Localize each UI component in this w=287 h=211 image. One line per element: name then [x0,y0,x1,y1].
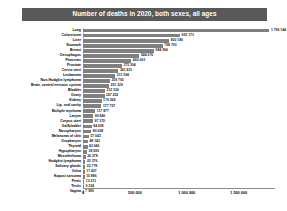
bar [83,99,102,103]
axis-horizontal-line [83,188,275,189]
bar-value-label: 26 278 [86,155,98,158]
bar-value-label: 57 043 [89,135,101,138]
bar [83,59,131,63]
bar [83,79,110,83]
bar [83,49,154,53]
bar-category-label: Testis [0,185,83,189]
bar-value-label: 97 370 [93,120,105,123]
bar-category-label: Ovary [0,94,83,98]
bar-category-label: Hypopharynx [0,150,83,154]
bar-value-label: 466 003 [131,59,145,62]
bar [83,114,93,118]
bar-value-label: 15 886 [85,175,97,178]
bar-category-label: Liver [0,39,83,43]
bar [83,29,269,33]
bar-category-label: Non-Hodgkin lymphoma [0,79,83,83]
bar [83,54,139,58]
bar [83,64,122,68]
bar-value-label: 830 180 [169,39,183,42]
bar-category-label: Pancreas [0,59,83,63]
bar-category-label: Bladder [0,89,83,93]
bar-category-label: Oropharynx [0,140,83,144]
bar-value-label: 179 368 [102,99,116,102]
bar-category-label: Gallbladder [0,125,83,129]
bar-category-label: Thyroid [0,145,83,149]
bar-category-label: Stomach [0,44,83,48]
bar-value-label: 22 778 [85,165,97,168]
bar-value-label: 43 646 [88,145,100,148]
bar-value-label: 544 076 [139,54,153,57]
axis-tick-label: 500 000 [128,192,142,196]
bar-value-label: 117 877 [95,110,109,113]
bar-value-label: 13 211 [84,180,96,183]
bar-category-label: Salivary glands [0,165,83,169]
bar-value-label: 935 173 [180,34,194,37]
bar-value-label: 80 008 [91,130,103,133]
bar [83,104,101,108]
bar-value-label: 48 143 [88,140,100,143]
bar-value-label: 768 793 [163,44,177,47]
bar-category-label: Larynx [0,115,83,119]
bar-value-label: 341 831 [118,69,132,72]
bar [83,89,105,93]
page-title: Number of deaths in 2020, both sexes, al… [72,11,216,17]
bar-category-label: Cervix uteri [0,69,83,73]
bar-value-label: 684 996 [154,49,168,52]
bar [83,39,169,43]
axis-tick-label: 0 [82,192,84,196]
bar-category-label: Breast [0,49,83,53]
bar [83,84,109,88]
axis-tick-labels: 0500 0001 000 0001 500 000 [0,192,287,202]
bar-value-label: 311 594 [115,74,129,77]
bar [83,69,118,73]
bar [83,130,91,134]
bar [83,94,105,98]
bar-category-label: Nasopharynx [0,130,83,134]
bar [83,109,95,113]
bar-value-label: 1 796 144 [269,29,286,32]
bar-category-label: Vulva [0,170,83,174]
bar-category-label: Multiple myeloma [0,110,83,114]
bar-value-label: 251 329 [109,84,123,87]
cancer-deaths-bar-chart: Number of deaths in 2020, both sexes, al… [0,0,287,211]
bar-category-label: Penis [0,180,83,184]
bar [83,125,92,129]
bar [83,74,115,78]
bar-category-label: Kidney [0,99,83,103]
bar-value-label: 177 757 [101,105,115,108]
bar [83,44,163,48]
bar-value-label: 375 304 [122,64,136,67]
bar-value-label: 207 252 [105,94,119,97]
bar [83,34,180,38]
chart-title-banner: Number of deaths in 2020, both sexes, al… [22,8,267,21]
bar-category-label: Kaposi sarcoma [0,175,83,179]
bar-value-label: 99 840 [93,115,105,118]
bar-value-label: 84 695 [92,125,104,128]
axis-tick-label: 1 000 000 [178,192,195,196]
bar-category-label: Melanoma of skin [0,135,83,139]
bar-value-label: 212 536 [105,89,119,92]
bar-value-label: 17 427 [85,170,97,173]
bar-category-label: Corpus uteri [0,120,83,124]
bar-value-label: 259 793 [110,79,124,82]
bar-category-label: Brain, central nervous system [0,84,83,88]
axis-tick-label: 1 500 000 [230,192,247,196]
bar-category-label: Oesophagus [0,54,83,58]
bar-category-label: Lip, oral cavity [0,104,83,108]
bar-value-label: 23 376 [85,160,97,163]
bar-category-label: Lung [0,29,83,33]
plot-area: Lung1 796 144Colorectum935 173Liver830 1… [0,28,287,188]
bar-category-label: Leukaemia [0,74,83,78]
bar [83,119,93,123]
bar-category-label: Hodgkin lymphoma [0,160,83,164]
bar-category-label: Colorectum [0,34,83,38]
bar-category-label: Prostate [0,64,83,68]
bar-value-label: 38 599 [87,150,99,153]
bar-category-label: Mesothelioma [0,155,83,159]
